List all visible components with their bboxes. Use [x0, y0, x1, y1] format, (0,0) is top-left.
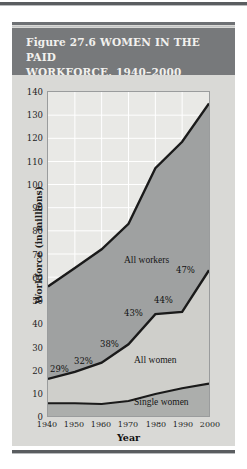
- y-tick-130: 130: [13, 110, 43, 120]
- figure-page: Figure 27.6 WOMEN IN THE PAID WORKFORCE,…: [0, 0, 247, 469]
- top-divider-rule: [0, 2, 247, 5]
- header-top-rule: [12, 22, 235, 25]
- chart-svg: [48, 92, 209, 416]
- header-top-rule-light: [12, 26, 235, 27]
- series-label-all-workers: All workers: [124, 255, 169, 265]
- y-tick-110: 110: [13, 157, 43, 167]
- y-tick-100: 100: [13, 180, 43, 190]
- x-tick-2000: 2000: [193, 420, 227, 429]
- y-tick-60: 60: [13, 273, 43, 283]
- plot-area: [47, 91, 210, 417]
- y-tick-120: 120: [13, 133, 43, 143]
- figure-title-line1: Figure 27.6 WOMEN IN THE PAID: [26, 36, 200, 63]
- annotation-43pct: 43%: [124, 308, 143, 318]
- figure-title: Figure 27.6 WOMEN IN THE PAID WORKFORCE,…: [26, 35, 226, 80]
- annotation-38pct: 38%: [100, 339, 119, 349]
- figure-block: Figure 27.6 WOMEN IN THE PAID WORKFORCE,…: [12, 22, 235, 446]
- annotation-47pct: 47%: [176, 265, 195, 275]
- y-tick-70: 70: [13, 250, 43, 260]
- y-tick-30: 30: [13, 343, 43, 353]
- series-label-single-women: Single women: [134, 397, 189, 407]
- y-tick-90: 90: [13, 203, 43, 213]
- y-tick-80: 80: [13, 226, 43, 236]
- annotation-44pct: 44%: [154, 295, 173, 305]
- figure-header-bar: Figure 27.6 WOMEN IN THE PAID WORKFORCE,…: [12, 28, 235, 75]
- series-label-all-women: All women: [134, 355, 176, 365]
- y-tick-10: 10: [13, 389, 43, 399]
- chart-area: Workforce (in millions) 140 130 120 110 …: [12, 75, 235, 446]
- y-tick-50: 50: [13, 296, 43, 306]
- annotation-29pct: 29%: [50, 364, 69, 374]
- y-tick-20: 20: [13, 366, 43, 376]
- y-tick-140: 140: [13, 87, 43, 97]
- x-axis-title: Year: [47, 432, 210, 443]
- y-tick-40: 40: [13, 319, 43, 329]
- annotation-32pct: 32%: [74, 356, 93, 366]
- bottom-divider-rule-light: [12, 453, 235, 454]
